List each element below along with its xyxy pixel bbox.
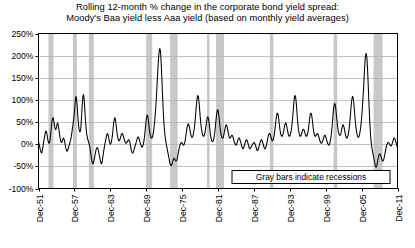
y-axis-label-7: 250% [12, 29, 34, 39]
y-axis-label-0: -100% [9, 184, 34, 194]
x-axis-label-4: Dec-75 [178, 194, 188, 222]
y-axis-label-2: 0% [21, 139, 34, 149]
y-axis-label-5: 150% [12, 73, 34, 83]
plot-area-wrapper: -100%-50%0%50%100%150%200%250% Dec-51Dec… [0, 0, 415, 248]
y-axis-label-4: 100% [12, 95, 34, 105]
recession-legend-annotation: Gray bars indicate recessions [232, 171, 390, 184]
y-axis-label-1: -50% [13, 161, 33, 171]
x-axis-label-2: Dec-63 [106, 194, 116, 222]
y-axis-labels-group: -100%-50%0%50%100%150%200%250% [9, 29, 34, 194]
x-axis-label-10: Dec-11 [394, 194, 404, 221]
x-axis-label-6: Dec-87 [250, 194, 260, 222]
x-axis-label-8: Dec-99 [322, 194, 332, 222]
x-axis-label-0: Dec-51 [35, 194, 45, 222]
x-axis-labels-group: Dec-51Dec-57Dec-63Dec-69Dec-75Dec-81Dec-… [35, 194, 404, 222]
x-axis-label-5: Dec-81 [214, 194, 224, 222]
y-axis-label-3: 50% [16, 117, 34, 127]
x-axis-label-1: Dec-57 [70, 194, 80, 222]
y-axis-label-6: 200% [12, 51, 34, 61]
x-axis-label-7: Dec-93 [286, 194, 296, 222]
chart-root: Rolling 12-month % change in the corpora… [0, 0, 415, 248]
chart-svg: -100%-50%0%50%100%150%200%250% Dec-51Dec… [0, 0, 415, 248]
x-axis-label-9: Dec-05 [358, 194, 368, 222]
x-axis-label-3: Dec-69 [142, 194, 152, 222]
annotation-text: Gray bars indicate recessions [256, 172, 366, 182]
